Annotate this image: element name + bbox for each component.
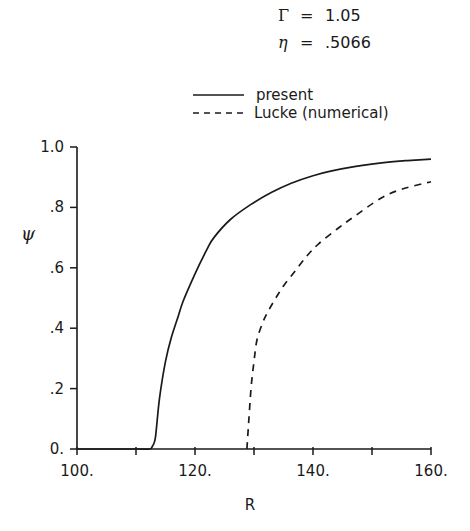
legend-label-present: present xyxy=(256,86,313,104)
x-ticks: 100.120.140.160. xyxy=(60,447,447,480)
gamma-equals: = xyxy=(300,6,313,25)
y-tick-label: .2 xyxy=(50,380,64,398)
axes xyxy=(77,147,431,449)
y-ticks: 0..2.4.6.81.0 xyxy=(40,138,77,458)
x-axis-label: R xyxy=(245,496,255,514)
legend: present Lucke (numerical) xyxy=(193,86,389,122)
legend-label-lucke: Lucke (numerical) xyxy=(254,104,389,122)
series-lucke-dashed-line xyxy=(247,182,431,449)
y-tick-label: .4 xyxy=(50,319,64,337)
gamma-value: 1.05 xyxy=(325,6,361,25)
y-axis-label: ψ xyxy=(21,223,36,244)
x-tick-label: 160. xyxy=(414,462,447,480)
y-tick-label: 0. xyxy=(50,440,64,458)
eta-equals: = xyxy=(300,33,313,52)
y-tick-label: .6 xyxy=(50,259,64,277)
x-tick-label: 140. xyxy=(296,462,329,480)
chart-plot: Γ = 1.05 η = .5066 present Lucke (numeri… xyxy=(0,0,470,531)
series-present-line xyxy=(77,159,431,449)
y-tick-label: .8 xyxy=(50,198,64,216)
gamma-symbol: Γ xyxy=(278,6,289,25)
eta-symbol: η xyxy=(278,33,288,52)
eta-value: .5066 xyxy=(325,33,371,52)
x-tick-label: 100. xyxy=(60,462,93,480)
parameter-annotations: Γ = 1.05 η = .5066 xyxy=(278,6,371,52)
y-tick-label: 1.0 xyxy=(40,138,64,156)
x-tick-label: 120. xyxy=(178,462,211,480)
